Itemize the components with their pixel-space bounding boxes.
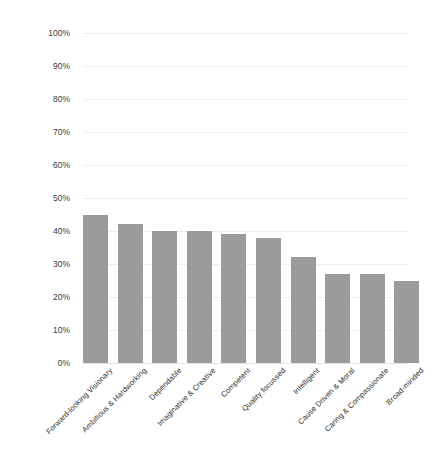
y-axis-tick-10: 10% [53,325,70,335]
gridline-0 [83,363,408,364]
y-axis-tick-40: 40% [53,226,70,236]
bar[interactable] [152,231,177,363]
y-axis-tick-90: 90% [53,61,70,71]
bar[interactable] [256,238,281,363]
x-axis-label: Ambitious & Hardworking [80,366,148,434]
x-axis-label: Forward-looking Visionary [44,366,114,436]
x-axis: Forward-looking VisionaryAmbitious & Har… [0,366,428,460]
bar[interactable] [291,257,316,363]
bar[interactable] [118,224,143,363]
y-axis-tick-50: 50% [53,193,70,203]
plot-area [83,33,408,363]
y-axis-tick-70: 70% [53,127,70,137]
x-axis-label: Competent [219,366,252,399]
y-axis-tick-80: 80% [53,94,70,104]
x-axis-label: Intelligent [291,366,321,396]
bar[interactable] [83,215,108,364]
bar[interactable] [360,274,385,363]
y-axis-tick-60: 60% [53,160,70,170]
bar[interactable] [394,281,419,364]
bar-chart: 100% 90% 80% 70% 60% 50% 40% 30% 20% 10%… [0,0,428,460]
bar[interactable] [187,231,212,363]
y-axis-tick-30: 30% [53,259,70,269]
x-axis-label: Imaginative & Creative [156,366,218,428]
y-axis-tick-20: 20% [53,292,70,302]
bar[interactable] [221,234,246,363]
x-axis-label: Dependable [147,366,183,402]
bar[interactable] [325,274,350,363]
x-axis-label: Caring & Compassionate [323,366,391,434]
y-axis-tick-100: 100% [48,28,70,38]
bar-series [83,33,408,363]
